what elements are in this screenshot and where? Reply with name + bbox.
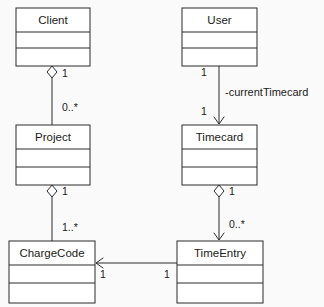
aggregation-diamond-icon — [214, 185, 224, 197]
aggregation-diamond-icon — [47, 66, 57, 78]
multiplicity-timeentry-target: 0..* — [229, 218, 245, 230]
multiplicity-project-source: 1 — [62, 185, 68, 197]
class-box-timeentry[interactable]: TimeEntry — [177, 241, 263, 303]
class-box-chargecode[interactable]: ChargeCode — [9, 241, 95, 303]
multiplicity-timecard-end: 1 — [201, 105, 207, 117]
class-name-label: ChargeCode — [19, 247, 84, 259]
multiplicity-chargecode-target: 1..* — [62, 221, 78, 233]
class-name-label: TimeEntry — [194, 247, 246, 259]
class-name-label: Project — [35, 131, 72, 143]
relationship-timecard-timeentry — [214, 185, 224, 240]
multiplicity-project-end: 0..* — [62, 101, 78, 113]
role-label-current-timecard: -currentTimecard — [225, 86, 308, 98]
multiplicity-client-end: 1 — [62, 67, 68, 79]
relationship-client-project — [47, 66, 57, 125]
multiplicity-timecard-source: 1 — [229, 185, 235, 197]
relationship-user-timecard — [214, 66, 224, 124]
class-name-label: User — [207, 14, 231, 26]
class-box-user[interactable]: User — [182, 8, 257, 66]
relationship-project-chargecode — [47, 185, 57, 241]
class-box-client[interactable]: Client — [16, 8, 90, 66]
multiplicity-timeentry-assoc: 1 — [164, 268, 170, 280]
class-box-timecard[interactable]: Timecard — [182, 125, 257, 185]
class-box-project[interactable]: Project — [16, 125, 90, 185]
relationship-timeentry-chargecode — [96, 258, 177, 268]
multiplicity-user-end: 1 — [201, 66, 207, 78]
class-name-label: Client — [38, 14, 68, 26]
class-name-label: Timecard — [196, 131, 244, 143]
diagram-canvas: Client User Project Timecard — [0, 0, 324, 307]
uml-class-diagram: Client User Project Timecard — [0, 0, 324, 307]
aggregation-diamond-icon — [47, 185, 57, 197]
multiplicity-chargecode-assoc: 1 — [100, 268, 106, 280]
